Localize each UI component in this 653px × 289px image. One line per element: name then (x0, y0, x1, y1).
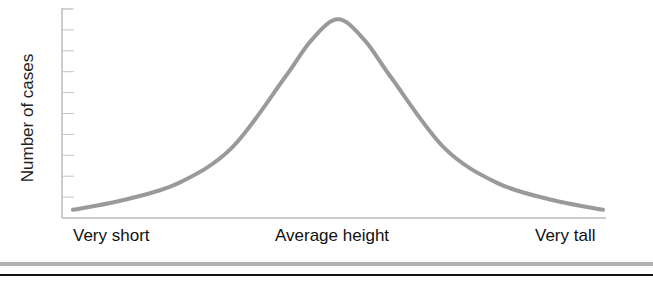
divider-black (0, 274, 653, 276)
distribution-curve (73, 19, 603, 209)
x-label-very-short: Very short (73, 226, 150, 246)
divider-gray (0, 262, 653, 266)
x-label-very-tall: Very tall (535, 226, 595, 246)
x-label-average-height: Average height (275, 226, 389, 246)
y-axis-ticks (62, 9, 74, 197)
y-axis-label: Number of cases (18, 54, 38, 183)
